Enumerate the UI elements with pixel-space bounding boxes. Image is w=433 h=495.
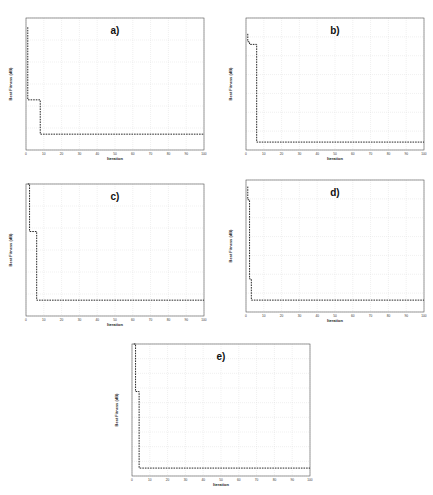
chart-panel-d: 0102030405060708090100IterationBest Fitn…	[228, 176, 428, 324]
y-axis-label: Best Fitness (dB)	[8, 67, 13, 101]
x-tick-label: 100	[201, 152, 207, 156]
chart-c: 0102030405060708090100IterationBest Fitn…	[8, 180, 208, 328]
fitness-curve	[134, 344, 310, 468]
x-tick-label: 30	[78, 152, 82, 156]
x-tick-label: 70	[369, 314, 373, 318]
x-tick-label: 30	[184, 478, 188, 482]
x-tick-label: 100	[201, 318, 207, 322]
y-axis-label: Best Fitness (dB)	[114, 393, 119, 427]
fitness-curve	[248, 34, 424, 142]
x-tick-label: 80	[387, 314, 391, 318]
x-tick-label: 10	[148, 478, 152, 482]
panel-label: d)	[330, 187, 339, 198]
x-tick-label: 0	[245, 314, 247, 318]
x-axis-label: Iteration	[107, 322, 123, 327]
x-tick-label: 0	[131, 478, 133, 482]
x-tick-label: 10	[42, 318, 46, 322]
x-tick-label: 20	[166, 478, 170, 482]
x-tick-label: 30	[298, 152, 302, 156]
x-axis-label: Iteration	[107, 156, 123, 161]
x-tick-label: 60	[351, 152, 355, 156]
x-axis-label: Iteration	[213, 482, 229, 487]
x-tick-label: 20	[280, 314, 284, 318]
x-tick-label: 100	[421, 152, 427, 156]
y-axis-label: Best Fitness (dB)	[8, 233, 13, 267]
x-tick-label: 0	[25, 152, 27, 156]
x-tick-label: 10	[262, 152, 266, 156]
chart-panel-a: 0102030405060708090100IterationBest Fitn…	[8, 14, 208, 162]
x-tick-label: 80	[273, 478, 277, 482]
x-tick-label: 60	[131, 152, 135, 156]
x-tick-label: 70	[149, 152, 153, 156]
x-tick-label: 40	[95, 152, 99, 156]
x-tick-label: 20	[280, 152, 284, 156]
x-tick-label: 100	[307, 478, 313, 482]
x-tick-label: 40	[315, 314, 319, 318]
x-tick-label: 0	[25, 318, 27, 322]
x-tick-label: 70	[369, 152, 373, 156]
x-tick-label: 40	[201, 478, 205, 482]
x-tick-label: 90	[184, 318, 188, 322]
x-tick-label: 0	[245, 152, 247, 156]
chart-e: 0102030405060708090100IterationBest Fitn…	[114, 340, 314, 488]
y-axis-label: Best Fitness (dB)	[228, 67, 233, 101]
chart-a: 0102030405060708090100IterationBest Fitn…	[8, 14, 208, 162]
chart-panel-c: 0102030405060708090100IterationBest Fitn…	[8, 180, 208, 328]
x-tick-label: 40	[95, 318, 99, 322]
x-tick-label: 60	[131, 318, 135, 322]
panel-label: a)	[111, 25, 120, 36]
x-tick-label: 100	[421, 314, 427, 318]
x-tick-label: 60	[237, 478, 241, 482]
chart-panel-e: 0102030405060708090100IterationBest Fitn…	[114, 340, 314, 488]
x-tick-label: 30	[78, 318, 82, 322]
x-axis-label: Iteration	[327, 318, 343, 323]
x-tick-label: 90	[404, 152, 408, 156]
x-tick-label: 90	[404, 314, 408, 318]
x-tick-label: 90	[184, 152, 188, 156]
chart-d: 0102030405060708090100IterationBest Fitn…	[228, 176, 428, 324]
x-tick-label: 80	[387, 152, 391, 156]
y-axis-label: Best Fitness (dB)	[228, 229, 233, 263]
x-tick-label: 30	[298, 314, 302, 318]
x-tick-label: 40	[315, 152, 319, 156]
x-tick-label: 90	[290, 478, 294, 482]
x-tick-label: 10	[262, 314, 266, 318]
x-tick-label: 60	[351, 314, 355, 318]
x-tick-label: 80	[167, 152, 171, 156]
x-tick-label: 10	[42, 152, 46, 156]
x-tick-label: 20	[60, 318, 64, 322]
x-tick-label: 70	[255, 478, 259, 482]
fitness-curve	[28, 27, 204, 134]
panel-label: e)	[217, 351, 226, 362]
x-tick-label: 70	[149, 318, 153, 322]
x-tick-label: 80	[167, 318, 171, 322]
chart-panel-b: 0102030405060708090100IterationBest Fitn…	[228, 14, 428, 162]
x-tick-label: 20	[60, 152, 64, 156]
x-axis-label: Iteration	[327, 156, 343, 161]
panel-label: c)	[111, 191, 120, 202]
panel-label: b)	[330, 25, 339, 36]
chart-b: 0102030405060708090100IterationBest Fitn…	[228, 14, 428, 162]
fitness-curve	[248, 187, 424, 301]
